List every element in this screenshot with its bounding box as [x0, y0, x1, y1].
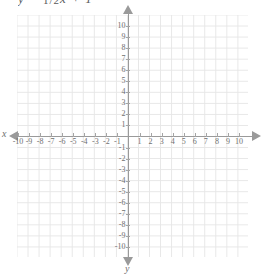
- y-axis-tick-label: 4: [112, 87, 126, 96]
- y-axis-tick: [126, 125, 130, 126]
- y-axis-tick-label: -1: [112, 143, 126, 152]
- y-axis-tick: [126, 181, 130, 182]
- y-axis-tick: [126, 225, 130, 226]
- y-axis-tick: [126, 37, 130, 38]
- equation-caption: y = 1/2x + 1: [18, 0, 93, 7]
- y-axis-tick: [126, 48, 130, 49]
- y-axis-tick-label: -4: [112, 176, 126, 185]
- y-axis-tick: [126, 247, 130, 248]
- y-axis-tick-label: 6: [112, 65, 126, 74]
- y-axis-tick-label: -10: [112, 242, 126, 251]
- y-axis-tick: [126, 70, 130, 71]
- y-axis-tick: [126, 192, 130, 193]
- y-axis-tick: [126, 103, 130, 104]
- y-axis-tick-label: -7: [112, 209, 126, 218]
- x-axis-arrow-right-icon: [252, 131, 261, 141]
- y-axis-tick-label: -9: [112, 231, 126, 240]
- y-axis-tick: [126, 203, 130, 204]
- y-axis-tick-label: -8: [112, 220, 126, 229]
- y-axis-tick-label: 10: [112, 21, 126, 30]
- y-axis-tick-label: 5: [112, 76, 126, 85]
- coordinate-grid-screenshot: y = 1/2x + 1 x y -10-9-8-7-6-5-4-3-2-112…: [0, 0, 261, 276]
- y-axis-tick-label: 9: [112, 32, 126, 41]
- y-axis-tick: [126, 214, 130, 215]
- y-axis-tick: [126, 159, 130, 160]
- y-axis-tick-label: 3: [112, 98, 126, 107]
- y-axis-tick: [126, 148, 130, 149]
- equation-fraction: 1/2: [43, 0, 60, 7]
- y-axis-tick-label: 7: [112, 54, 126, 63]
- y-axis-tick-label: 8: [112, 43, 126, 52]
- y-axis-tick: [126, 59, 130, 60]
- equation-suffix: x + 1: [60, 0, 93, 6]
- y-axis-tick-label: 1: [112, 120, 126, 129]
- y-axis-tick-label: -2: [112, 154, 126, 163]
- y-axis-tick-label: -5: [112, 187, 126, 196]
- y-axis-tick-label: -6: [112, 198, 126, 207]
- y-axis-arrow-up-icon: [123, 5, 133, 14]
- y-axis-label: y: [125, 263, 129, 274]
- y-axis-tick-label: 2: [112, 109, 126, 118]
- y-axis-tick: [126, 92, 130, 93]
- x-axis-tick-label: 10: [232, 137, 246, 146]
- y-axis-tick: [126, 26, 130, 27]
- y-axis-tick-label: -3: [112, 165, 126, 174]
- y-axis-tick: [126, 114, 130, 115]
- x-axis-label: x: [2, 128, 6, 139]
- y-axis-tick: [126, 170, 130, 171]
- equation-prefix: y =: [18, 0, 43, 6]
- y-axis-tick: [126, 81, 130, 82]
- y-axis-tick: [126, 236, 130, 237]
